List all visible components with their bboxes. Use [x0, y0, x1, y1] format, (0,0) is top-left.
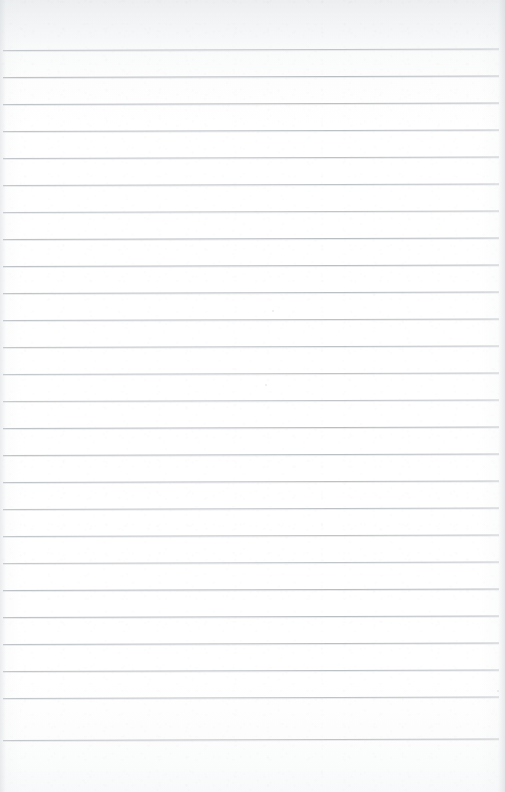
paper-sheet-background [0, 0, 505, 792]
lined-paper-page [0, 0, 505, 792]
